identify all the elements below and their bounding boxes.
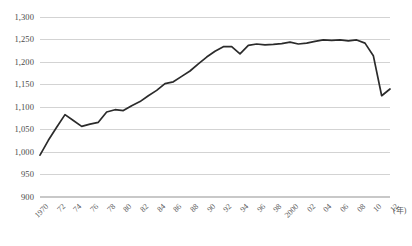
y-axis-tick-label: 1,150 xyxy=(0,79,34,89)
y-axis-tick-label: 950 xyxy=(0,169,34,179)
y-axis-tick-label: 1,050 xyxy=(0,124,34,134)
line-chart: 9009501,0001,0501,1001,1501,2001,2501,30… xyxy=(0,0,412,246)
y-axis-tick-label: 1,100 xyxy=(0,102,34,112)
data-series-group xyxy=(40,40,390,155)
y-axis-tick-label: 900 xyxy=(0,192,34,202)
gridline-group xyxy=(40,17,390,197)
y-axis-tick-label: 1,000 xyxy=(0,147,34,157)
x-axis-unit-label: (年) xyxy=(393,204,406,215)
data-line xyxy=(40,40,390,155)
y-axis-tick-label: 1,300 xyxy=(0,12,34,22)
y-axis-tick-label: 1,200 xyxy=(0,57,34,67)
y-axis-tick-label: 1,250 xyxy=(0,34,34,44)
